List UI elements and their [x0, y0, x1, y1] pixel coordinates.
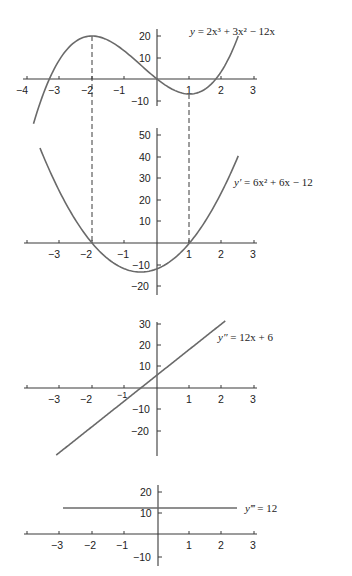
- y-tick-label: 20: [139, 194, 151, 206]
- x-tick-label: −4: [16, 84, 28, 96]
- x-tick-label: −3: [48, 84, 60, 96]
- y-tick-label: 10: [139, 360, 151, 372]
- y-tick-label: 10: [139, 215, 151, 227]
- y-tick-label: −20: [131, 280, 149, 292]
- curve-y: [34, 36, 239, 124]
- x-tick-label: 3: [250, 539, 256, 551]
- y-ticks: [157, 324, 161, 431]
- x-tick-label: −2: [84, 539, 96, 551]
- y-tick-label: 20: [139, 339, 151, 351]
- derivatives-diagram: −4 −3 −2 −1 1 2 3 20 10 −10 y = 2x³ + 3x…: [0, 0, 352, 576]
- y-tick-label: 10: [139, 52, 151, 64]
- y-ticks: [157, 36, 161, 101]
- equation-label-y-double-prime: y″ = 12x + 6: [217, 331, 273, 343]
- curve-y-prime: [40, 148, 238, 272]
- x-tick-label: −3: [48, 248, 60, 260]
- x-tick-label: −3: [51, 539, 63, 551]
- y-tick-label: −10: [131, 95, 149, 107]
- graph-y-double-prime: −3 −2 −1 1 2 3 30 20 10 −10 −20 y″ = 12x…: [24, 318, 273, 456]
- x-tick-label: −1: [116, 539, 128, 551]
- x-tick-label: −2: [80, 393, 92, 405]
- y-tick-label: 30: [139, 318, 151, 330]
- x-tick-label: −1: [117, 248, 129, 260]
- x-tick-label: 1: [186, 248, 192, 260]
- x-tick-label: 3: [250, 84, 256, 96]
- equation-label-y: y = 2x³ + 3x² − 12x: [189, 25, 276, 37]
- equation-label-y-prime: y′ = 6x² + 6x − 12: [233, 176, 313, 188]
- y-tick-label: −10: [132, 259, 150, 271]
- equation-label-y-triple-prime: y‴ = 12: [244, 502, 277, 514]
- x-tick-label: 2: [218, 539, 224, 551]
- x-tick-label: −1: [113, 84, 125, 96]
- graph-y-prime: −3 −2 −1 1 2 3 50 40 30 20 10 −10 −20 y′…: [24, 128, 313, 295]
- y-tick-label: −20: [131, 425, 149, 437]
- y-tick-label: −10: [132, 403, 150, 415]
- y-tick-label: 40: [139, 151, 151, 163]
- x-tick-label: 3: [250, 393, 256, 405]
- x-tick-label: 2: [218, 393, 224, 405]
- x-tick-label: 3: [250, 248, 256, 260]
- y-tick-label: −10: [133, 551, 151, 563]
- x-tick-label: −3: [48, 393, 60, 405]
- x-tick-label: 1: [186, 539, 192, 551]
- y-ticks: [158, 492, 162, 557]
- y-ticks: [157, 135, 161, 286]
- graph-y-triple-prime: −3 −2 −1 1 2 3 20 10 −10 y‴ = 12: [24, 485, 277, 566]
- y-tick-label: 50: [139, 129, 151, 141]
- x-tick-label: 1: [186, 393, 192, 405]
- graph-y: −4 −3 −2 −1 1 2 3 20 10 −10 y = 2x³ + 3x…: [16, 25, 276, 124]
- y-tick-label: 20: [139, 30, 151, 42]
- x-tick-label: −2: [80, 248, 92, 260]
- y-tick-label: 30: [139, 172, 151, 184]
- x-tick-label: −1: [117, 390, 127, 400]
- y-tick-label: 20: [140, 486, 152, 498]
- x-tick-label: −2: [81, 84, 93, 96]
- x-tick-label: 2: [218, 84, 224, 96]
- x-tick-label: 2: [218, 248, 224, 260]
